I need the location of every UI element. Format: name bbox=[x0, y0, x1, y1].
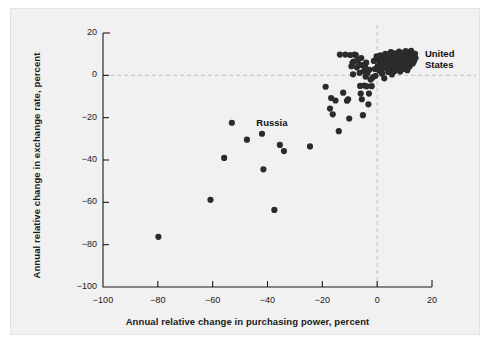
y-tick-label: 0 bbox=[63, 69, 97, 79]
x-tick-label: −80 bbox=[138, 295, 178, 305]
y-tick-label: −40 bbox=[63, 154, 97, 164]
x-tick-label: −100 bbox=[83, 295, 123, 305]
x-tick-label: −60 bbox=[193, 295, 233, 305]
x-tick-label: −20 bbox=[302, 295, 342, 305]
y-tick-label: −20 bbox=[63, 112, 97, 122]
annotation-united-states: United States bbox=[425, 48, 455, 70]
y-tick-label: 20 bbox=[63, 27, 97, 37]
data-points bbox=[155, 48, 418, 240]
y-tick-label: −80 bbox=[63, 239, 97, 249]
x-tick-label: 0 bbox=[357, 295, 397, 305]
y-tick-label: −60 bbox=[63, 196, 97, 206]
annotation-united-states-line2: States bbox=[425, 59, 455, 70]
x-tick-label: 20 bbox=[412, 295, 452, 305]
x-tick-label: −40 bbox=[248, 295, 288, 305]
annotation-united-states-line1: United bbox=[425, 48, 455, 59]
annotation-russia: Russia bbox=[256, 117, 287, 128]
tick-marks bbox=[103, 75, 377, 287]
x-axis-title: Annual relative change in purchasing pow… bbox=[0, 316, 495, 327]
y-tick-label: −100 bbox=[63, 281, 97, 291]
figure-container: −100−80−60−40−20020200−20−40−60−80−100 A… bbox=[0, 0, 495, 353]
reference-lines bbox=[103, 25, 476, 287]
y-axis-title: Annual relative change in exchange rate,… bbox=[31, 16, 42, 316]
